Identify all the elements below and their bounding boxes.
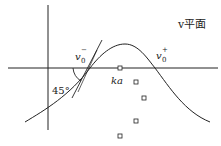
angle-label: 45°	[52, 85, 70, 96]
marker-square	[142, 96, 146, 100]
plane-label: v平面	[177, 18, 206, 31]
svg-text:0: 0	[162, 56, 166, 64]
svg-text:−: −	[81, 46, 87, 54]
tangent-line-45	[72, 40, 102, 98]
svg-text:0: 0	[81, 57, 85, 65]
angle-arc	[73, 68, 81, 81]
v-plane-diagram: v平面 v 0 − v 0 + ka 45°	[0, 0, 221, 146]
marker-square	[134, 80, 138, 84]
v0-plus-label: v 0 +	[156, 46, 168, 64]
marker-square	[118, 134, 122, 138]
marker-square	[134, 119, 138, 123]
v0-minus-label: v 0 −	[75, 46, 87, 65]
svg-text:+: +	[162, 46, 168, 54]
ka-label: ka	[111, 75, 123, 86]
marker-square	[118, 66, 122, 70]
